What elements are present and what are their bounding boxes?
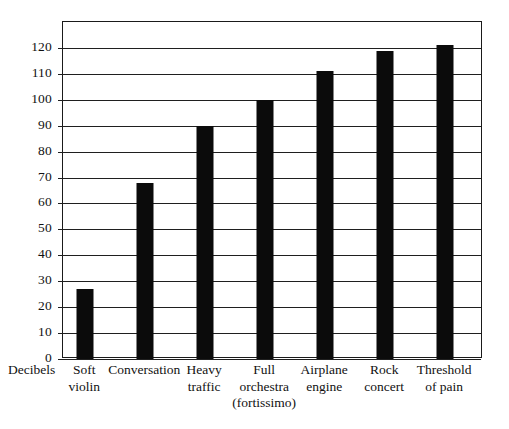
category-label-line: Threshold xyxy=(417,362,472,379)
category-label-line: Full xyxy=(232,362,296,379)
category-label-line: orchestra xyxy=(232,379,296,396)
y-axis-tick-label: 110 xyxy=(32,66,52,80)
y-axis-tick-label: 20 xyxy=(38,299,52,313)
y-axis-title: Decibels xyxy=(8,362,55,379)
x-axis-category-label: Airplaneengine xyxy=(301,362,348,395)
bar xyxy=(197,126,214,359)
y-axis-tick-label: 90 xyxy=(38,118,52,132)
category-label-line: of pain xyxy=(417,379,472,396)
y-axis-tick-label: 10 xyxy=(38,325,52,339)
category-label-line: traffic xyxy=(187,379,222,396)
category-label-line: Soft xyxy=(68,362,100,379)
bar xyxy=(437,45,454,359)
category-label-line: Heavy xyxy=(187,362,222,379)
y-axis-tick-label: 70 xyxy=(38,170,52,184)
x-axis-category-label: Thresholdof pain xyxy=(417,362,472,395)
bars-layer xyxy=(63,22,481,357)
x-axis-category-labels: Decibels SoftviolinConversationHeavytraf… xyxy=(0,362,509,429)
y-axis-tick-label: 30 xyxy=(38,273,52,287)
bar xyxy=(137,183,154,359)
y-axis-tick-label: 60 xyxy=(38,196,52,210)
plot-area xyxy=(62,21,482,358)
category-label-line: Conversation xyxy=(108,362,180,379)
x-axis-category-label: Softviolin xyxy=(68,362,100,395)
y-axis-tick-label: 120 xyxy=(31,40,52,54)
y-axis-tick-label: 80 xyxy=(38,144,52,158)
bar xyxy=(377,51,394,359)
bar xyxy=(77,289,94,359)
bar xyxy=(317,71,334,359)
category-label-line: concert xyxy=(364,379,404,396)
x-axis-category-label: Heavytraffic xyxy=(187,362,222,395)
category-label-line: Airplane xyxy=(301,362,348,379)
y-axis-tickmark xyxy=(58,359,63,360)
bar xyxy=(257,100,274,359)
x-axis-category-label: Conversation xyxy=(108,362,180,379)
y-axis-tick-label: 40 xyxy=(38,248,52,262)
category-label-line: violin xyxy=(68,379,100,396)
x-axis-category-label: Rockconcert xyxy=(364,362,404,395)
gridline xyxy=(63,359,481,360)
x-axis-category-label: Fullorchestra(fortissimo) xyxy=(232,362,296,412)
y-axis-tick-label: 50 xyxy=(38,222,52,236)
category-label-line: (fortissimo) xyxy=(232,395,296,412)
decibels-bar-chart: 0102030405060708090100110120 Decibels So… xyxy=(0,0,509,429)
y-axis-tick-label: 100 xyxy=(31,92,52,106)
category-label-line: engine xyxy=(301,379,348,396)
category-label-line: Rock xyxy=(364,362,404,379)
